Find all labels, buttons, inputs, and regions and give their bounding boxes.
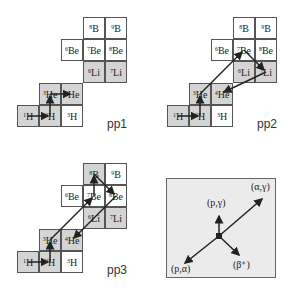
cell-8Be: 8Be [105,185,127,207]
panel-label: pp3 [107,263,127,277]
cell-4He: 4He [211,83,233,105]
cell-4He: 4He [61,83,83,105]
cell-6Be: 6Be [61,39,83,61]
panel-label: pp1 [107,117,127,131]
legend-beta-plus: (β⁺) [233,259,250,270]
cell-9B: 9B [105,163,127,185]
cell-7Li: 7Li [105,207,127,229]
cell-1H: 1H [17,251,39,273]
cell-6Li: 6Li [83,207,105,229]
cell-3He: 3He [189,83,211,105]
panel-pp3: 8B 9B 6Be 7Be 8Be 6Li 7Li 3He 4He 1H 2H … [17,163,147,288]
cell-7Li: 7Li [105,61,127,83]
cell-3He: 3He [39,229,61,251]
cell-8B: 8B [83,17,105,39]
cell-8Be: 8Be [255,39,277,61]
cell-2H: 2H [39,105,61,127]
cell-9B: 9B [255,17,277,39]
cell-7Be: 7Be [233,39,255,61]
panel-label: pp2 [257,117,277,131]
cell-3H: 3H [211,105,233,127]
cell-4He: 4He [61,229,83,251]
panel-pp1: 8B 9B 6Be 7Be 8Be 6Li 7Li 3He 4He 1H 2H … [17,17,147,142]
cell-2H: 2H [39,251,61,273]
cell-9B: 9B [105,17,127,39]
cell-1H: 1H [17,105,39,127]
cell-3H: 3H [61,251,83,273]
legend-p-gamma: (p,γ) [207,197,226,208]
cell-8B: 8B [233,17,255,39]
legend-alpha-gamma: (α,γ) [251,181,270,192]
cell-6Li: 6Li [83,61,105,83]
cell-7Be: 7Be [83,185,105,207]
cell-6Be: 6Be [211,39,233,61]
reaction-legend: (α,γ) (p,γ) (p,α) (β⁺) [166,178,276,278]
cell-8Be: 8Be [105,39,127,61]
cell-6Be: 6Be [61,185,83,207]
cell-7Be: 7Be [83,39,105,61]
cell-2H: 2H [189,105,211,127]
cell-7Li: 7Li [255,61,277,83]
cell-3H: 3H [61,105,83,127]
cell-3He: 3He [39,83,61,105]
cell-6Li: 6Li [233,61,255,83]
legend-p-alpha: (p,α) [171,263,190,274]
cell-1H: 1H [167,105,189,127]
panel-pp2: 8B 9B 6Be 7Be 8Be 6Li 7Li 3He 4He 1H 2H … [167,17,296,142]
cell-8B: 8B [83,163,105,185]
